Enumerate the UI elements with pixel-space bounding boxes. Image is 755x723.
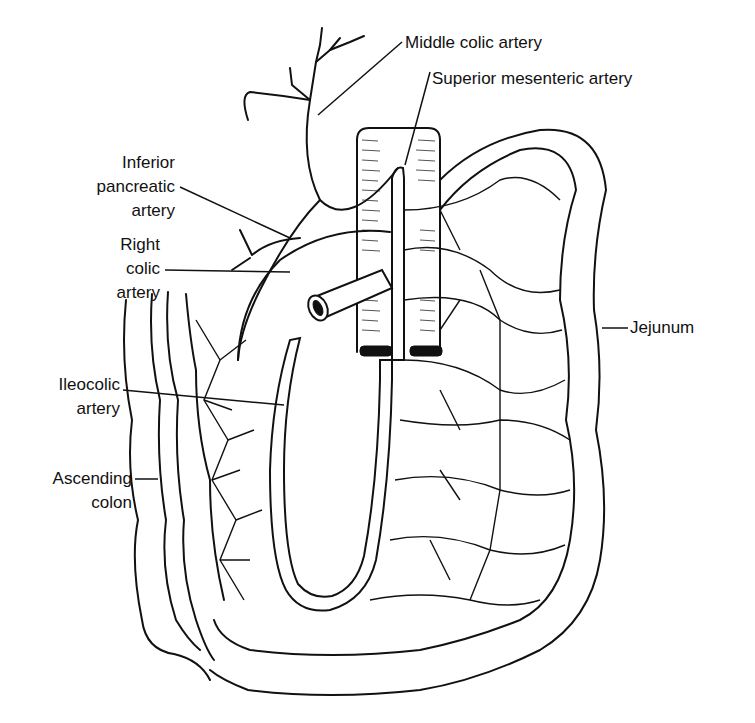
label-middle-colic-artery: Middle colic artery: [405, 32, 542, 53]
label-ileocolic-artery-1: Ileocolic: [0, 374, 120, 395]
ascending-colon: [124, 292, 224, 680]
anatomy-diagram: [0, 0, 755, 723]
label-ileocolic-artery-2: artery: [0, 398, 120, 419]
label-inferior-pancreatic-artery-2: pancreatic: [50, 176, 175, 197]
label-superior-mesenteric-artery: Superior mesenteric artery: [432, 68, 632, 89]
label-right-colic-artery-3: artery: [40, 282, 160, 303]
label-ascending-colon-2: colon: [0, 492, 132, 513]
label-jejunum: Jejunum: [630, 317, 694, 338]
jejunum: [210, 130, 606, 695]
label-right-colic-artery-1: Right: [40, 234, 160, 255]
label-inferior-pancreatic-artery-1: Inferior: [50, 152, 175, 173]
label-ascending-colon-1: Ascending: [0, 468, 132, 489]
label-right-colic-artery-2: colic: [40, 258, 160, 279]
renal-vein: [304, 270, 392, 324]
label-inferior-pancreatic-artery-3: artery: [50, 200, 175, 221]
